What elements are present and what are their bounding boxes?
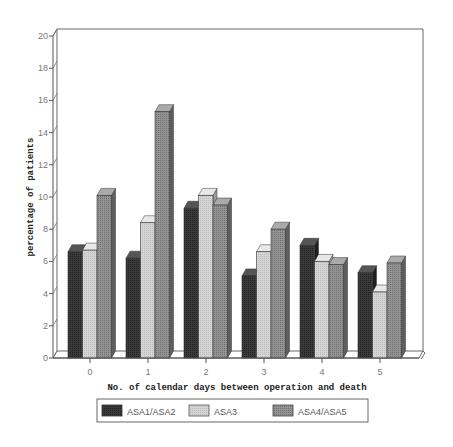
bar-group-2	[184, 188, 232, 358]
y-tick-label: 6	[43, 256, 48, 266]
legend-swatch	[102, 405, 122, 416]
y-tick-label: 4	[43, 289, 48, 299]
x-tick-label: 5	[377, 367, 382, 377]
y-axis: 02468101214161820	[38, 29, 57, 363]
bar-group-5	[358, 256, 406, 358]
bar	[213, 198, 232, 358]
bar-group-4	[300, 238, 348, 358]
x-axis: 012345	[53, 358, 419, 377]
legend-label: ASA3	[214, 407, 237, 417]
x-tick-label: 4	[319, 367, 324, 377]
x-tick-label: 0	[87, 367, 92, 377]
y-tick-label: 18	[38, 63, 48, 73]
y-tick-label: 16	[38, 95, 48, 105]
bar	[271, 222, 290, 358]
bar-group-0	[68, 188, 116, 358]
bar	[329, 258, 348, 358]
legend: ASA1/ASA2 ASA3 ASA4/ASA5	[97, 399, 368, 422]
y-tick-label: 14	[38, 128, 48, 138]
x-tick-label: 1	[145, 367, 150, 377]
bar-chart: 02468101214161820 012345 No. of calendar…	[0, 0, 453, 447]
legend-item-asa4-asa5: ASA4/ASA5	[273, 405, 347, 417]
y-tick-label: 10	[38, 192, 48, 202]
legend-label: ASA4/ASA5	[298, 407, 347, 417]
legend-item-asa1-asa2: ASA1/ASA2	[102, 405, 176, 417]
x-axis-title: No. of calendar days between operation a…	[107, 383, 366, 393]
bar-group-1	[126, 105, 174, 358]
y-tick-label: 8	[43, 224, 48, 234]
legend-label: ASA1/ASA2	[127, 407, 176, 417]
y-tick-label: 0	[43, 353, 48, 363]
x-tick-label: 2	[203, 367, 208, 377]
y-tick-label: 12	[38, 160, 48, 170]
bar	[155, 105, 174, 358]
y-tick-label: 2	[43, 321, 48, 331]
legend-swatch	[189, 405, 209, 416]
bar-group-3	[242, 222, 290, 358]
bar-series	[68, 105, 406, 358]
legend-swatch	[273, 405, 293, 416]
y-tick-label: 20	[38, 31, 48, 41]
bar	[387, 256, 406, 358]
y-axis-title: percentage of patients	[26, 138, 36, 257]
x-tick-label: 3	[261, 367, 266, 377]
bar	[97, 188, 116, 358]
